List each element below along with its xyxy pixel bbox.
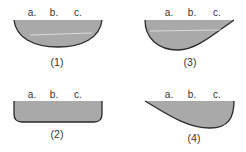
figure-4-label-c: c. — [213, 89, 221, 100]
figure-1-label-a: a. — [28, 7, 36, 18]
figure-1: a. b. c. (1) — [14, 7, 102, 68]
figure-4-caption: (4) — [188, 132, 201, 144]
figure-4: a. b. c. (4) — [145, 89, 234, 144]
figure-2: a. b. c. (2) — [14, 89, 102, 140]
figure-2-shape — [14, 101, 102, 122]
figure-1-caption: (1) — [51, 56, 64, 68]
figure-4-label-a: a. — [165, 89, 173, 100]
figure-2-label-b: b. — [50, 89, 58, 100]
figure-3: a. b. c. (3) — [145, 7, 234, 68]
figure-3-caption: (3) — [184, 56, 197, 68]
figure-1-label-c: c. — [74, 7, 82, 18]
figure-2-label-a: a. — [28, 89, 36, 100]
figure-3-label-a: a. — [165, 7, 173, 18]
cross-section-diagram: a. b. c. (1) a. b. c. (3) a. b. c. (2) a… — [0, 0, 246, 152]
figure-4-label-b: b. — [188, 89, 196, 100]
figure-3-label-b: b. — [188, 7, 196, 18]
figure-2-caption: (2) — [51, 128, 64, 140]
figure-2-label-c: c. — [74, 89, 82, 100]
figure-1-label-b: b. — [50, 7, 58, 18]
figure-3-label-c: c. — [213, 7, 221, 18]
